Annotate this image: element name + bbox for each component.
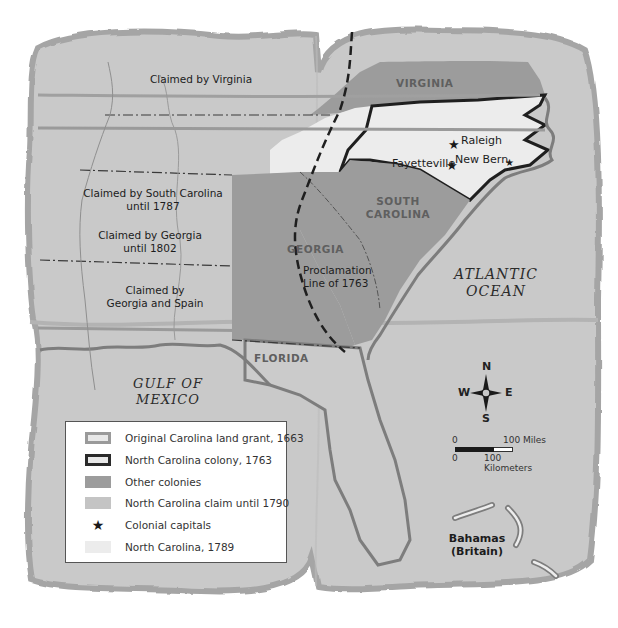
- compass-north: N: [482, 360, 491, 373]
- legend-label: Colonial capitals: [125, 519, 211, 531]
- label-claimed-sc-line2: until 1787: [78, 200, 228, 213]
- outlined-dark-swatch-icon: [85, 454, 111, 466]
- compass-east: E: [505, 386, 513, 399]
- label-claimed-georgia-spain: Claimed by Georgia and Spain: [95, 284, 215, 310]
- legend: Original Carolina land grant, 1663 North…: [65, 421, 287, 563]
- compass-rose: N S W E: [458, 362, 514, 424]
- light-gray-swatch-icon: [85, 497, 111, 509]
- label-claimed-south-carolina: Claimed by South Carolina until 1787: [78, 187, 228, 213]
- label-claimed-gs-line1: Claimed by: [95, 284, 215, 297]
- label-florida: FLORIDA: [254, 352, 309, 365]
- label-south-carolina: SOUTH CAROLINA: [358, 195, 438, 221]
- legend-label: North Carolina colony, 1763: [125, 454, 272, 466]
- label-bahamas-line1: Bahamas: [442, 532, 512, 545]
- outlined-light-swatch-icon: [85, 432, 111, 444]
- label-sc-line1: SOUTH: [358, 195, 438, 208]
- label-bahamas: Bahamas (Britain): [442, 532, 512, 558]
- label-gulf-line2: MEXICO: [128, 392, 208, 408]
- label-city-new-bern: New Bern: [455, 153, 508, 166]
- label-proc-line1: Proclamation: [303, 264, 372, 277]
- legend-item-claim: North Carolina claim until 1790: [66, 493, 289, 513]
- legend-item-capitals: ★ Colonial capitals: [66, 515, 211, 535]
- star-icon: ★: [85, 519, 111, 531]
- legend-label: Other colonies: [125, 476, 201, 488]
- star-icon-raleigh: ★: [448, 137, 460, 152]
- scale-km-label: 100 Kilometers: [484, 453, 552, 473]
- label-claimed-virginia: Claimed by Virginia: [150, 73, 252, 86]
- grant-line: [38, 95, 540, 97]
- legend-item-grant: Original Carolina land grant, 1663: [66, 428, 304, 448]
- label-virginia: VIRGINIA: [396, 77, 453, 90]
- label-atlantic-line1: ATLANTIC: [446, 266, 546, 283]
- legend-item-other: Other colonies: [66, 472, 201, 492]
- label-sc-line2: CAROLINA: [358, 208, 438, 221]
- pale-swatch-icon: [85, 541, 111, 553]
- label-gulf-of-mexico: GULF OF MEXICO: [128, 376, 208, 408]
- label-atlantic-line2: OCEAN: [446, 283, 546, 300]
- scale-km-zero: 0: [452, 453, 458, 463]
- compass-south: S: [482, 412, 490, 425]
- scale-bar-km: [455, 447, 494, 452]
- scale-miles-label: 100 Miles: [503, 435, 546, 445]
- label-atlantic-ocean: ATLANTIC OCEAN: [446, 266, 546, 300]
- label-claimed-ga-line1: Claimed by Georgia: [90, 229, 210, 242]
- label-claimed-sc-line1: Claimed by South Carolina: [78, 187, 228, 200]
- compass-west: W: [458, 386, 470, 399]
- label-claimed-gs-line2: Georgia and Spain: [95, 297, 215, 310]
- legend-label: North Carolina, 1789: [125, 541, 234, 553]
- label-gulf-line1: GULF OF: [128, 376, 208, 392]
- label-proc-line2: Line of 1763: [303, 277, 372, 290]
- label-georgia: GEORGIA: [287, 243, 344, 256]
- label-proclamation-line: Proclamation Line of 1763: [303, 264, 372, 290]
- legend-item-colony: North Carolina colony, 1763: [66, 450, 272, 470]
- label-city-fayetteville: Fayetteville: [392, 157, 455, 170]
- legend-item-nc1789: North Carolina, 1789: [66, 537, 234, 557]
- scale-bar: 0 100 Miles 0 100 Kilometers: [452, 435, 552, 469]
- dark-gray-swatch-icon: [85, 476, 111, 488]
- label-claimed-ga-line2: until 1802: [90, 242, 210, 255]
- label-city-raleigh: Raleigh: [461, 134, 502, 147]
- legend-label: North Carolina claim until 1790: [125, 497, 289, 509]
- label-bahamas-line2: (Britain): [442, 545, 512, 558]
- label-claimed-georgia: Claimed by Georgia until 1802: [90, 229, 210, 255]
- grant-line: [38, 128, 545, 130]
- scale-miles-zero: 0: [452, 435, 458, 445]
- legend-label: Original Carolina land grant, 1663: [125, 432, 304, 444]
